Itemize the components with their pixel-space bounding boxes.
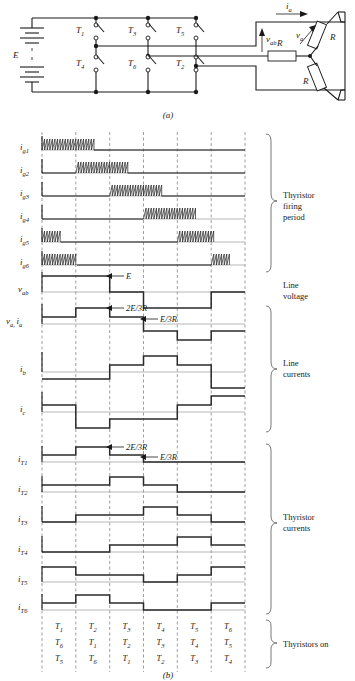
- table-cell-r1c3: T3: [123, 621, 132, 633]
- label-T1: T1: [76, 25, 84, 37]
- annotation-2E3R-iT1: 2E/3R: [106, 442, 148, 452]
- table-cell-r3c4: T2: [156, 653, 165, 665]
- annotation-E3R-iT1: E/3R: [140, 452, 178, 462]
- annotation-2E3R-ia: 2E/3R: [106, 303, 148, 313]
- brace-thyristors-on: [266, 620, 277, 668]
- label-ib: ib: [20, 364, 27, 376]
- table-cell-r3c6: T4: [224, 653, 233, 665]
- annotation-E3R-text-2: E/3R: [159, 452, 178, 462]
- label-ig6: ig6: [20, 257, 30, 269]
- group-label-linevoltage-2: voltage: [283, 291, 308, 301]
- brace-firing: [266, 134, 277, 272]
- group-label-firing-3: period: [283, 212, 305, 222]
- table-cell-r2c6: T5: [224, 637, 233, 649]
- label-ia: ia: [286, 1, 292, 13]
- group-label-thyon-1: Thyristors on: [283, 639, 329, 649]
- pulse-train-ig6-b: [211, 254, 229, 265]
- group-label-linecurrents-1: Line: [283, 358, 299, 368]
- pulse-train-ig2: [76, 162, 128, 173]
- table-cell-r2c3: T2: [123, 637, 132, 649]
- label-R-c: R: [302, 76, 309, 86]
- annotation-2E3R-text-2: 2E/3R: [126, 442, 148, 452]
- pulse-train-ig3: [110, 185, 162, 196]
- table-cell-r2c5: T4: [190, 637, 199, 649]
- label-iT6: iT6: [18, 602, 28, 614]
- table-cell-r1c2: T2: [89, 621, 98, 633]
- label-ig2: ig2: [20, 165, 30, 177]
- dc-source: E: [12, 18, 44, 92]
- figure-root: E T1 T4: [0, 0, 355, 681]
- waveform-ig4: ig4: [20, 205, 245, 223]
- caption-a: (a): [163, 110, 174, 120]
- label-T5: T5: [176, 25, 185, 37]
- label-ig5: ig5: [20, 234, 30, 246]
- table-cell-r3c1: T5: [55, 653, 64, 665]
- label-R-b: R: [276, 38, 283, 48]
- resistor-phase-c: [307, 63, 326, 91]
- label-ig4: ig4: [20, 211, 30, 223]
- pulse-train-ig4: [144, 208, 196, 219]
- label-ig3: ig3: [20, 188, 30, 200]
- resistor-phase-b: [268, 51, 296, 61]
- label-va: va: [296, 30, 303, 42]
- brace-thyristor-currents: [266, 444, 277, 614]
- pulse-train-ig1: [42, 139, 94, 150]
- circuit-diagram: E T1 T4: [12, 1, 345, 120]
- label-iT5: iT5: [18, 574, 28, 586]
- leg-b: T3 T6: [128, 16, 156, 94]
- leg-c: T5 T2: [176, 16, 204, 94]
- brace-line-currents: [266, 306, 277, 432]
- label-T4: T4: [76, 58, 85, 70]
- table-cell-r2c4: T3: [156, 637, 165, 649]
- label-T2: T2: [176, 58, 185, 70]
- label-iT1: iT1: [18, 454, 27, 466]
- resistor-phase-a: [307, 21, 326, 49]
- pulse-train-ig5-b: [177, 231, 213, 242]
- figure-svg: E T1 T4: [0, 0, 355, 681]
- table-cell-r1c5: T5: [190, 621, 199, 633]
- label-iT4: iT4: [18, 544, 28, 556]
- table-cell-r2c2: T1: [89, 637, 97, 649]
- group-label-thycurrents-2: currents: [283, 523, 310, 533]
- source-label-E: E: [12, 50, 19, 60]
- group-label-firing-2: firing: [283, 201, 303, 211]
- annotation-E3R-ia: E/3R: [140, 314, 178, 324]
- group-brackets: Thyristor firing period Line voltage Lin…: [266, 134, 329, 668]
- label-iT2: iT2: [18, 484, 28, 496]
- label-iT3: iT3: [18, 514, 28, 526]
- annotation-2E3R-text: 2E/3R: [126, 303, 148, 313]
- waveform-panel: ig1 ig2 ig3: [6, 132, 329, 680]
- label-ic: ic: [20, 404, 26, 416]
- table-cell-r1c6: T6: [224, 621, 233, 633]
- pulse-train-ig5-a: [42, 231, 60, 242]
- waveform-ig3: ig3: [20, 182, 245, 200]
- caption-b: (b): [163, 670, 174, 680]
- label-T6: T6: [128, 58, 137, 70]
- table-cell-r1c4: T4: [156, 621, 165, 633]
- waveform-iT5: iT5: [18, 566, 245, 586]
- group-label-thycurrents-1: Thyristor: [283, 512, 315, 522]
- group-label-linevoltage-1: Line: [283, 280, 299, 290]
- label-T3: T3: [128, 25, 137, 37]
- waveform-ib: ib: [20, 352, 245, 388]
- table-cell-r3c3: T1: [123, 653, 131, 665]
- wye-load: R R R: [268, 12, 345, 100]
- label-vab: vab: [266, 34, 277, 46]
- label-va-ia: va, ia: [6, 316, 22, 328]
- table-cell-r3c5: T3: [190, 653, 199, 665]
- conduction-table: T1 T2 T3 T4 T5 T6 T6 T1 T2 T3 T4 T5 T5 T…: [55, 621, 233, 665]
- pulse-train-ig6-a: [42, 254, 76, 265]
- label-ig1: ig1: [20, 142, 29, 154]
- group-label-firing-1: Thyristor: [283, 190, 315, 200]
- grid-lines: [42, 132, 245, 672]
- annotation-E-text: E: [125, 271, 132, 281]
- label-vab-wave: vab: [18, 284, 29, 296]
- table-cell-r2c1: T6: [55, 637, 64, 649]
- group-label-linecurrents-2: currents: [283, 369, 310, 379]
- leg-a: T1 T4: [76, 16, 104, 94]
- annotation-E3R-text: E/3R: [159, 314, 178, 324]
- label-R-a: R: [329, 32, 336, 42]
- table-cell-r3c2: T6: [89, 653, 98, 665]
- table-cell-r1c1: T1: [55, 621, 63, 633]
